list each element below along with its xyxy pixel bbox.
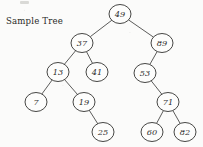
tree-node[interactable]: 49	[109, 5, 131, 24]
tree-edge	[157, 111, 164, 124]
tree-edge	[89, 110, 97, 123]
tree-edge	[129, 20, 154, 37]
tree-edge	[42, 80, 52, 94]
tree-edge	[151, 81, 162, 94]
tree-node-label: 60	[147, 127, 157, 137]
tree-node-label: 7	[33, 97, 39, 107]
tree-node-label: 37	[77, 38, 88, 48]
tree-edge	[150, 52, 157, 65]
binary-search-tree-diagram: 49378913415371971256082	[0, 0, 203, 147]
tree-node-label: 19	[79, 97, 89, 107]
tree-node[interactable]: 19	[73, 93, 95, 112]
tree-node[interactable]: 37	[71, 34, 93, 53]
figure-canvas: Sample Tree 49378913415371971256082	[0, 0, 203, 147]
tree-node-label: 71	[163, 97, 173, 107]
tree-node-label: 13	[53, 67, 63, 77]
tree-node[interactable]: 25	[92, 123, 114, 142]
tree-node[interactable]: 71	[157, 93, 179, 112]
tree-edge	[65, 80, 78, 95]
tree-node-label: 82	[180, 127, 190, 137]
tree-node-label: 89	[157, 38, 167, 48]
tree-node-label: 25	[97, 127, 108, 137]
tree-node[interactable]: 13	[47, 63, 69, 82]
tree-node[interactable]: 89	[151, 34, 173, 53]
tree-node[interactable]: 41	[86, 63, 108, 82]
tree-edge	[173, 111, 180, 124]
tree-edge	[90, 20, 112, 36]
tree-node[interactable]: 53	[134, 64, 156, 83]
tree-node-label: 49	[114, 9, 125, 19]
tree-node-label: 53	[140, 68, 150, 78]
tree-node[interactable]: 82	[174, 123, 196, 142]
tree-node-label: 41	[91, 67, 102, 77]
tree-node[interactable]: 60	[141, 123, 163, 142]
node-layer: 49378913415371971256082	[25, 5, 196, 142]
tree-edge	[64, 51, 75, 65]
tree-node[interactable]: 7	[25, 93, 47, 112]
tree-edge	[86, 52, 92, 64]
